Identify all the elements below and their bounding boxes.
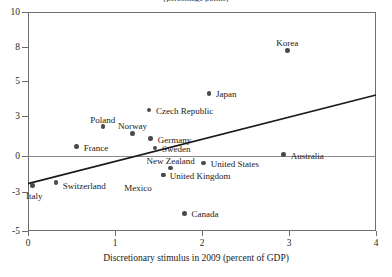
trend-line-layer [0, 0, 392, 277]
data-point [30, 183, 35, 188]
data-point-label: Italy [26, 191, 43, 201]
data-point-label: Korea [276, 38, 298, 48]
data-point-label: France [84, 143, 109, 153]
data-point-label: Czech Republic [156, 106, 213, 116]
data-point [207, 91, 212, 96]
data-point-label: Australia [291, 151, 324, 161]
data-point-label: New Zealand [147, 156, 195, 166]
scatter-chart: (percentage points) 108530-3-5 01234 Kor… [0, 0, 392, 277]
x-axis-title: Discretionary stimulus in 2009 (percent … [0, 253, 392, 263]
data-point [74, 144, 79, 149]
data-point-label: Switzerland [63, 181, 106, 191]
data-point [148, 136, 153, 141]
data-point [101, 124, 106, 129]
data-point [54, 180, 59, 185]
data-point-label: United Kingdom [170, 171, 231, 181]
data-point-label: Poland [90, 115, 115, 125]
data-point-label: Norway [118, 121, 147, 131]
data-point [281, 152, 286, 157]
data-point [130, 131, 135, 136]
data-point-label: Japan [216, 89, 237, 99]
data-point [285, 48, 290, 53]
data-point-label: Canada [192, 209, 219, 219]
data-point [182, 211, 187, 216]
data-point-label: United States [211, 159, 259, 169]
data-point-label: Sweden [162, 144, 191, 154]
